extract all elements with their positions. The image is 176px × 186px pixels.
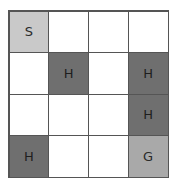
game-board: SHHHHG [8, 10, 169, 178]
cell-goal-r3c3: G [128, 135, 169, 178]
cell-frozen-r0c2 [88, 11, 129, 54]
cell-frozen-r1c2 [88, 52, 129, 95]
cell-frozen-r3c2 [88, 135, 129, 178]
cell-hole-r1c3: H [128, 52, 169, 95]
cell-frozen-r2c2 [88, 94, 129, 137]
cell-hole-r1c1: H [48, 52, 89, 95]
cell-frozen-r3c1 [48, 135, 89, 178]
cell-frozen-r0c3 [128, 11, 169, 54]
cell-frozen-r0c1 [48, 11, 89, 54]
cell-frozen-r1c0 [9, 52, 50, 95]
cell-frozen-r2c0 [9, 94, 50, 137]
cell-hole-r2c3: H [128, 94, 169, 137]
cell-start-r0c0: S [9, 11, 50, 54]
cell-frozen-r2c1 [48, 94, 89, 137]
cell-hole-r3c0: H [9, 135, 50, 178]
